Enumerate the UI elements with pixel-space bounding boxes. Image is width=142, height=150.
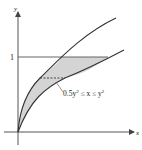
region-diagram: y x 1 0.5y2 ≤ x ≤ y2 bbox=[0, 0, 142, 150]
annotation-leader bbox=[56, 82, 63, 92]
x-axis-label: x bbox=[135, 129, 140, 137]
y-tick-1: 1 bbox=[10, 53, 14, 62]
y-axis-label: y bbox=[13, 5, 18, 13]
region-annotation: 0.5y2 ≤ x ≤ y2 bbox=[63, 89, 105, 98]
